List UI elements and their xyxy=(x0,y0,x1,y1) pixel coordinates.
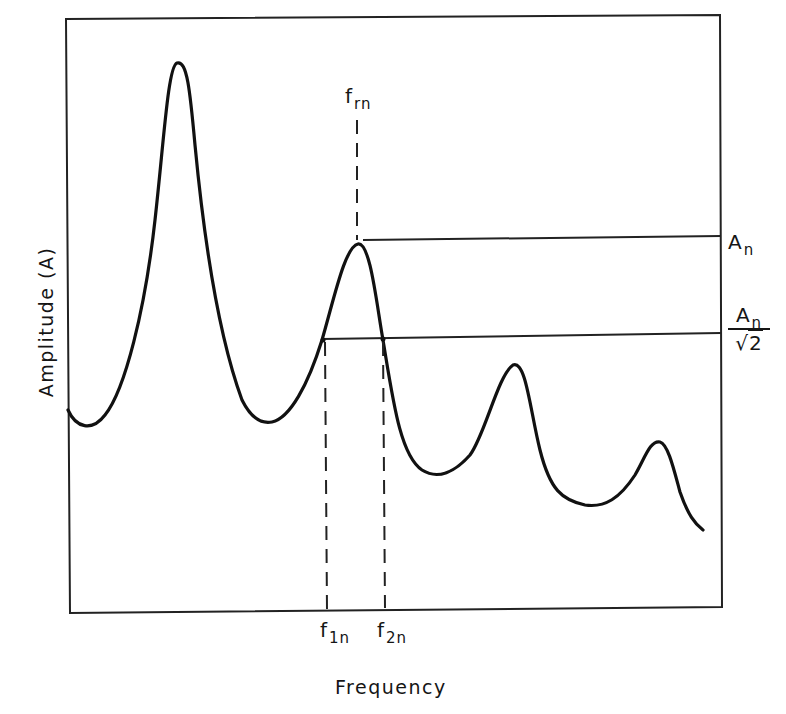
response-curve xyxy=(68,63,703,530)
resonant-frequency-label: frn xyxy=(345,86,371,106)
plot-frame xyxy=(66,15,722,613)
label-subscript: 1n xyxy=(329,629,350,647)
peak-amplitude-label: An xyxy=(728,232,754,252)
label-subscript: n xyxy=(744,241,755,259)
label-subscript: rn xyxy=(354,95,371,113)
y-axis-label: Amplitude (A) xyxy=(37,247,56,398)
label-symbol: f xyxy=(345,84,352,108)
diagram-canvas xyxy=(0,0,786,714)
upper-half-power-marker xyxy=(383,342,385,608)
label-subscript: 2n xyxy=(386,629,407,647)
lower-half-power-marker xyxy=(325,342,327,610)
label-symbol: f xyxy=(377,618,384,642)
radical-icon: √ xyxy=(735,331,748,355)
label-symbol: A xyxy=(728,230,742,254)
label-symbol: f xyxy=(320,618,327,642)
label-subscript: n xyxy=(752,314,763,332)
peak-amplitude-line xyxy=(363,236,721,240)
upper-half-power-frequency-label: f2n xyxy=(377,620,407,640)
half-power-amplitude-label: An √2 xyxy=(728,305,770,353)
x-axis-label: Frequency xyxy=(335,678,447,697)
intersection-dot-f2n xyxy=(381,337,386,342)
lower-half-power-frequency-label: f1n xyxy=(320,620,350,640)
fraction-numerator: An xyxy=(736,305,762,328)
radicand: 2 xyxy=(748,330,763,355)
fraction-denominator: √2 xyxy=(735,330,762,353)
label-symbol: A xyxy=(736,303,750,327)
intersection-dot-f1n xyxy=(321,338,326,343)
